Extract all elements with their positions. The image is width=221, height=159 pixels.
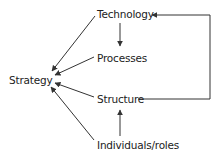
node-processes: Processes [97, 52, 147, 64]
node-strategy: Strategy [9, 74, 52, 86]
node-structure: Structure [97, 93, 144, 105]
arrow-structure-to-technology [138, 15, 210, 99]
arrow-technology-to-strategy [52, 16, 95, 71]
diagram-canvas: Technology Processes Strategy Structure … [0, 0, 221, 159]
node-individuals-roles: Individuals/roles [97, 139, 179, 151]
node-technology: Technology [97, 8, 154, 20]
arrow-structure-to-strategy [55, 83, 94, 97]
